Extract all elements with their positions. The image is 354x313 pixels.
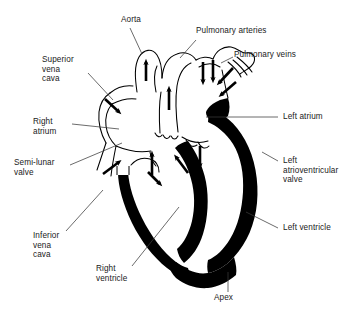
label-inferior-vena-cava: Inferior vena cava xyxy=(33,231,59,260)
label-pulmonary-arteries: Pulmonary arteries xyxy=(196,26,267,36)
label-left-atrium: Left atrium xyxy=(283,112,323,122)
left-ventricle-wall-fill xyxy=(207,108,257,273)
label-superior-vena-cava: Superior vena cava xyxy=(42,55,74,84)
pulmonary-vein-inflow-arrow-2 xyxy=(221,82,236,95)
leader-superior-vena-cava xyxy=(88,73,113,100)
label-pulmonary-veins: Pulmonary veins xyxy=(234,50,296,60)
superior-vena-cava-outline-2 xyxy=(112,99,136,104)
pulmonary-veins-outline-3 xyxy=(233,60,247,75)
aorta-inner-outline xyxy=(155,66,157,92)
label-aorta: Aorta xyxy=(113,15,149,25)
inferior-vena-cava-outline-2 xyxy=(111,146,116,176)
right-atrium-floor-outline xyxy=(116,146,151,152)
pulmonary-artery-branch-outline-1 xyxy=(196,57,213,60)
right-atrium-to-right-ventricle-arrow xyxy=(148,172,160,184)
superior-vena-cava-inflow-arrow xyxy=(105,99,119,112)
label-apex: Apex xyxy=(214,293,233,303)
label-left-atrioventricular-valve: Left atrioventricular valve xyxy=(283,156,338,185)
leader-pulmonary-veins xyxy=(221,57,233,63)
semi-lunar-valve-cusp-3 xyxy=(171,136,178,139)
label-right-ventricle: Right ventricle xyxy=(96,264,127,283)
pulmonary-trunk-left-outline xyxy=(159,92,161,133)
semi-lunar-valve-gap xyxy=(117,166,129,175)
leader-aorta xyxy=(130,28,142,54)
interventricular-septum-fill xyxy=(175,141,208,263)
inferior-vena-cava-outline xyxy=(97,143,106,170)
semi-lunar-valve-cusp-2 xyxy=(163,135,170,139)
semi-lunar-valve-cusp-1 xyxy=(155,133,162,137)
pulmonary-trunk-right-outline xyxy=(176,63,191,132)
label-right-atrium: Right atrium xyxy=(33,117,56,136)
leader-inferior-vena-cava xyxy=(66,190,103,231)
leader-right-atrium xyxy=(72,124,119,129)
valve-gap-group xyxy=(117,166,129,175)
right-ventricle-wall-fill xyxy=(118,172,192,279)
heart-diagram-page: Aorta Pulmonary arteries Pulmonary veins… xyxy=(0,0,354,313)
leader-pulmonary-arteries xyxy=(180,40,196,58)
label-semi-lunar-valve: Semi-lunar valve xyxy=(14,158,55,177)
leader-left-atrioventricular-valve xyxy=(262,152,278,161)
superior-vena-cava-outline xyxy=(110,86,133,93)
label-left-ventricle: Left ventricle xyxy=(283,223,331,233)
right-atrium-inner-outline xyxy=(106,104,116,146)
aorta-vessel-outline xyxy=(135,50,162,92)
myocardium-group xyxy=(118,98,258,288)
pulmonary-trunk-outline xyxy=(162,53,196,78)
pulmonary-vein-inflow-arrow-1 xyxy=(219,68,233,83)
